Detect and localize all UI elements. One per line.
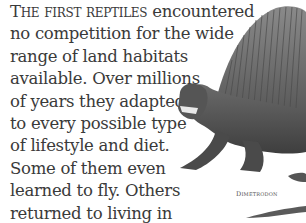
illustration-caption: Dimetrodon — [236, 190, 278, 198]
lead-in: The first reptiles — [10, 2, 147, 21]
page: The first reptiles encountered no compet… — [0, 0, 306, 223]
